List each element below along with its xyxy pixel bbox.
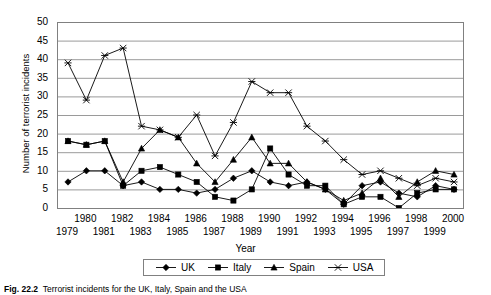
x-tick-label: 1987	[194, 226, 234, 237]
data-point-marker	[433, 168, 439, 174]
x-axis-tick-labels: 1979198019811982198319841985198619871988…	[0, 209, 491, 245]
data-point-marker	[432, 175, 439, 181]
y-tick-label: 35	[26, 73, 48, 83]
legend-label: Spain	[289, 262, 315, 273]
caption-number: Fig. 22.2	[4, 284, 38, 294]
data-point-marker	[157, 186, 163, 192]
data-point-marker	[138, 123, 145, 129]
data-point-marker	[101, 52, 108, 58]
data-point-marker	[231, 198, 236, 203]
plot-area	[57, 22, 464, 209]
x-tick-label: 1991	[268, 226, 308, 237]
y-tick-label: 30	[26, 91, 48, 101]
data-point-marker	[268, 146, 273, 151]
data-point-marker	[415, 191, 420, 196]
data-point-marker	[267, 179, 273, 185]
y-tick-label: 10	[26, 166, 48, 176]
data-point-marker	[334, 264, 341, 270]
x-tick-label: 1995	[341, 226, 381, 237]
x-tick-label: 1989	[231, 226, 271, 237]
data-point-marker	[378, 194, 383, 199]
y-tick-label: 50	[26, 17, 48, 27]
data-point-marker	[322, 138, 329, 144]
data-point-marker	[83, 168, 89, 174]
legend-marker-square-icon	[207, 262, 229, 273]
x-tick-label: 1985	[157, 226, 197, 237]
x-tick-label: 1994	[323, 213, 363, 224]
data-point-marker	[450, 179, 457, 185]
x-tick-label: 1980	[65, 213, 105, 224]
data-point-marker	[175, 186, 181, 192]
series-usa	[64, 45, 457, 189]
x-tick-label: 1999	[415, 226, 455, 237]
data-point-marker	[230, 119, 237, 125]
data-point-marker	[340, 156, 347, 162]
x-tick-label: 2000	[433, 213, 473, 224]
data-point-marker	[377, 168, 384, 174]
legend-item-spain: Spain	[263, 262, 315, 273]
plot-svg	[58, 22, 464, 208]
data-point-marker	[303, 123, 310, 129]
x-tick-label: 1982	[102, 213, 142, 224]
data-point-marker	[451, 187, 456, 192]
y-tick-label: 45	[26, 36, 48, 46]
x-tick-label: 1988	[212, 213, 252, 224]
x-tick-label: 1992	[286, 213, 326, 224]
y-tick-label: 5	[26, 184, 48, 194]
legend-label: Italy	[233, 262, 251, 273]
data-point-marker	[212, 186, 218, 192]
data-point-marker	[163, 264, 169, 270]
data-point-marker	[64, 60, 71, 66]
data-point-marker	[377, 175, 383, 181]
data-point-marker	[176, 172, 181, 177]
data-point-marker	[249, 168, 255, 174]
x-tick-label: 1984	[139, 213, 179, 224]
data-point-marker	[65, 179, 71, 185]
legend-marker-triangle-icon	[263, 262, 285, 273]
data-point-marker	[211, 153, 218, 159]
data-point-marker	[83, 97, 90, 103]
x-axis-label: Year	[0, 243, 491, 254]
data-point-marker	[358, 171, 365, 177]
caption-text: Terrorist incidents for the UK, Italy, S…	[43, 284, 247, 294]
legend-marker-diamond-icon	[155, 262, 177, 273]
legend-label: UK	[181, 262, 195, 273]
figure-caption: Fig. 22.2 Terrorist incidents for the UK…	[4, 284, 491, 295]
x-tick-label: 1986	[176, 213, 216, 224]
y-tick-label: 20	[26, 129, 48, 139]
data-point-marker	[286, 172, 291, 177]
data-point-marker	[194, 179, 199, 184]
legend-item-usa: USA	[327, 262, 374, 273]
x-tick-label: 1981	[84, 226, 124, 237]
series-line	[68, 48, 454, 186]
chart-legend: UKItalySpainUSA	[143, 259, 385, 276]
legend-item-italy: Italy	[207, 262, 251, 273]
data-point-marker	[120, 45, 127, 51]
x-tick-label: 1996	[359, 213, 399, 224]
data-point-marker	[249, 134, 255, 140]
x-tick-label: 1997	[378, 226, 418, 237]
y-tick-label: 25	[26, 110, 48, 120]
data-point-marker	[248, 78, 255, 84]
figure: Number of terrorist incidents 5045403530…	[0, 0, 491, 295]
data-point-marker	[212, 194, 217, 199]
data-point-marker	[285, 89, 292, 95]
data-point-marker	[139, 168, 144, 173]
data-point-marker	[395, 175, 402, 181]
data-point-marker	[396, 205, 401, 208]
data-point-marker	[267, 89, 274, 95]
data-point-marker	[193, 112, 200, 118]
legend-label: USA	[353, 262, 374, 273]
y-tick-label: 15	[26, 147, 48, 157]
data-point-marker	[285, 182, 291, 188]
x-tick-label: 1983	[121, 226, 161, 237]
data-point-marker	[249, 187, 254, 192]
legend-item-uk: UK	[155, 262, 195, 273]
data-point-marker	[138, 179, 144, 185]
data-point-marker	[215, 265, 220, 270]
x-tick-label: 1998	[396, 213, 436, 224]
x-tick-label: 1993	[304, 226, 344, 237]
data-point-marker	[193, 190, 199, 196]
y-tick-label: 40	[26, 54, 48, 64]
data-point-marker	[433, 187, 438, 192]
